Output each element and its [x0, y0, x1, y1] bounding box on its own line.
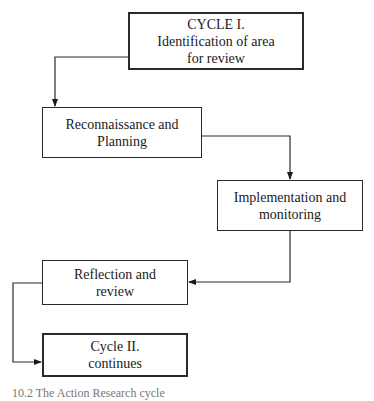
node-cycle-2-line-2: continues	[88, 355, 142, 372]
node-cycle-2: Cycle II. continues	[42, 333, 188, 377]
node-implementation-line-1: Implementation and	[234, 189, 346, 206]
node-reflection: Reflection and review	[42, 260, 188, 305]
node-reconnaissance: Reconnaissance and Planning	[42, 107, 202, 158]
figure-caption: 10.2 The Action Research cycle	[12, 386, 165, 401]
node-reconnaissance-line-2: Planning	[97, 133, 147, 150]
edge-n1-n2	[55, 57, 128, 106]
edge-n4-n5	[13, 283, 42, 362]
node-reflection-line-2: review	[96, 283, 134, 300]
node-implementation-line-2: monitoring	[259, 206, 321, 223]
node-cycle-2-line-1: Cycle II.	[91, 338, 140, 355]
edge-n3-n4	[189, 231, 290, 282]
node-reflection-line-1: Reflection and	[74, 266, 156, 283]
node-cycle-1-line-3: for review	[187, 50, 245, 67]
edge-n2-n3	[202, 136, 290, 179]
node-cycle-1-line-1: CYCLE I.	[187, 16, 245, 33]
node-implementation: Implementation and monitoring	[217, 180, 363, 231]
node-cycle-1: CYCLE I. Identification of area for revi…	[128, 12, 304, 70]
node-cycle-1-line-2: Identification of area	[157, 33, 274, 50]
node-reconnaissance-line-1: Reconnaissance and	[65, 116, 178, 133]
